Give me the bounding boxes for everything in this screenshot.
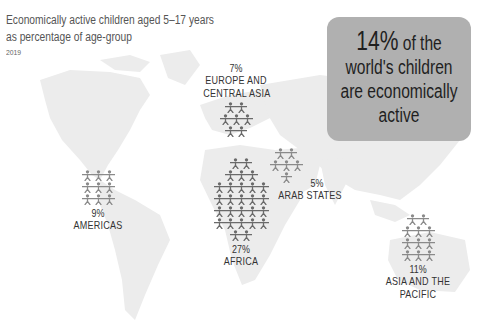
child-icon [402, 238, 413, 249]
child-icon [104, 194, 115, 205]
child-icon [236, 206, 247, 217]
child-icon [236, 126, 247, 137]
child-icon [236, 218, 247, 229]
child-icon [225, 218, 236, 229]
child-icon [413, 250, 424, 261]
child-icon [286, 148, 297, 159]
child-icon [104, 182, 115, 193]
child-icon [424, 226, 435, 237]
child-icon [258, 206, 269, 217]
child-icon [424, 250, 435, 261]
child-icon [413, 226, 424, 237]
child-icon [214, 194, 225, 205]
child-icon [225, 206, 236, 217]
child-icon [220, 114, 231, 125]
region-label-2: PACIFIC [385, 288, 451, 301]
child-icon [241, 158, 252, 169]
year-label: 2019 [6, 48, 21, 57]
child-icon [402, 250, 413, 261]
child-icon [214, 206, 225, 217]
region-arab-states-label: 5% ARAB STATES [272, 177, 342, 202]
child-icon [93, 182, 104, 193]
child-icon [413, 238, 424, 249]
region-americas: 9% AMERICAS [68, 170, 128, 232]
child-icon [225, 102, 236, 113]
region-pct: 9% [73, 207, 124, 219]
region-pct: 7% [202, 62, 270, 74]
child-icon [236, 194, 247, 205]
child-icon [281, 160, 292, 171]
child-icon [104, 170, 115, 181]
region-label: EUROPE AND [203, 74, 269, 87]
region-asia-pacific: 11% ASIA AND THE PACIFIC [378, 214, 458, 301]
callout-pct: 14% [356, 26, 398, 56]
child-icon [402, 226, 413, 237]
callout-line1: of the [398, 32, 441, 54]
child-icons [196, 102, 276, 137]
child-icon [247, 182, 258, 193]
child-icon [236, 182, 247, 193]
child-icon [82, 194, 93, 205]
child-icons [378, 214, 458, 261]
child-icon [225, 194, 236, 205]
region-label-2: CENTRAL ASIA [203, 87, 269, 100]
region-pct: 11% [384, 263, 452, 275]
child-icon [258, 218, 269, 229]
child-icon [93, 170, 104, 181]
child-icon [241, 230, 252, 241]
child-icon [258, 194, 269, 205]
title-line-2: as percentage of age-group [6, 29, 214, 46]
child-icon [93, 194, 104, 205]
child-icon [231, 114, 242, 125]
child-icon [214, 218, 225, 229]
child-icon [407, 214, 418, 225]
region-pct: 5% [296, 177, 339, 189]
child-icon [225, 126, 236, 137]
child-icon [242, 114, 253, 125]
child-icon [275, 148, 286, 159]
callout-line3: are economically [327, 79, 471, 103]
region-europe-central-asia: 7% EUROPE AND CENTRAL ASIA [196, 62, 276, 137]
region-label: ARAB STATES [278, 189, 335, 202]
child-icon [82, 182, 93, 193]
child-icon [292, 160, 303, 171]
child-icons [68, 170, 128, 205]
child-icon [230, 158, 241, 169]
region-pct: 27% [206, 243, 276, 255]
region-label: AFRICA [207, 255, 274, 268]
region-label: AMERICAS [73, 219, 122, 232]
child-icon [236, 170, 247, 181]
child-icon [247, 218, 258, 229]
child-icon [247, 194, 258, 205]
child-icon [230, 230, 241, 241]
region-label: ASIA AND THE [385, 275, 451, 288]
callout-line2: world's children [327, 55, 471, 79]
child-icon [236, 102, 247, 113]
child-icon [214, 182, 225, 193]
child-icon [258, 182, 269, 193]
child-icon [247, 206, 258, 217]
callout-line4: active [327, 103, 471, 127]
chart-title: Economically active children aged 5–17 y… [6, 12, 214, 46]
child-icon [225, 182, 236, 193]
child-icon [270, 160, 281, 171]
child-icon [247, 170, 258, 181]
child-icon [82, 170, 93, 181]
child-icon [225, 170, 236, 181]
title-line-1: Economically active children aged 5–17 y… [6, 12, 214, 29]
child-icon [424, 238, 435, 249]
highlight-callout: 14% of the world's children are economic… [327, 17, 471, 141]
child-icon [418, 214, 429, 225]
